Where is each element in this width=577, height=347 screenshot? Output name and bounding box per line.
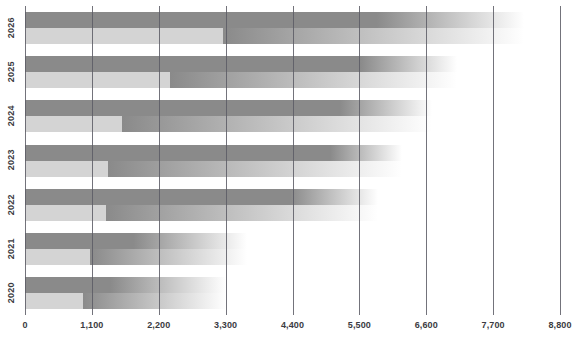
- bar-group-2020: [25, 277, 560, 309]
- bar-group-2025: [25, 56, 560, 88]
- bar-group-2024: [25, 100, 560, 132]
- bar-light-solid-2022: [25, 205, 106, 221]
- x-tick-label-7700: 7,700: [482, 320, 505, 330]
- bar-dark-solid-2026: [25, 12, 376, 28]
- gridline-8800: [560, 6, 561, 315]
- bar-light-solid-2020: [25, 293, 83, 309]
- x-tick-label-1100: 1,100: [80, 320, 103, 330]
- x-tick-label-3300: 3,300: [214, 320, 237, 330]
- x-axis: 01,1002,2003,3004,4005,5006,6007,7008,80…: [25, 320, 560, 340]
- x-tick-label-8800: 8,800: [548, 320, 571, 330]
- x-tick-label-0: 0: [22, 320, 27, 330]
- bar-dark-solid-2020: [25, 277, 110, 293]
- bar-group-2022: [25, 189, 560, 221]
- y-tick-label-2022: 2022: [0, 183, 22, 227]
- bar-dark-solid-2025: [25, 56, 360, 72]
- y-tick-label-2025: 2025: [0, 50, 22, 94]
- x-tick-label-4400: 4,400: [281, 320, 304, 330]
- bar-light-solid-2023: [25, 161, 108, 177]
- bar-dark-solid-2022: [25, 189, 290, 205]
- bar-group-2023: [25, 145, 560, 177]
- y-tick-label-2021: 2021: [0, 227, 22, 271]
- bar-group-2026: [25, 12, 560, 44]
- y-tick-label-2024: 2024: [0, 94, 22, 138]
- bar-dark-solid-2023: [25, 145, 330, 161]
- x-tick-label-2200: 2,200: [147, 320, 170, 330]
- bar-light-solid-2024: [25, 116, 122, 132]
- y-tick-label-2026: 2026: [0, 6, 22, 50]
- x-tick-label-5500: 5,500: [348, 320, 371, 330]
- y-axis: 2020202120222023202420252026: [0, 6, 24, 315]
- x-tick-label-6600: 6,600: [415, 320, 438, 330]
- bar-light-solid-2026: [25, 28, 223, 44]
- bar-dark-solid-2024: [25, 100, 340, 116]
- bar-chart: 2020202120222023202420252026 01,1002,200…: [0, 0, 577, 347]
- bar-light-solid-2025: [25, 72, 170, 88]
- y-tick-label-2020: 2020: [0, 271, 22, 315]
- bar-group-2021: [25, 233, 560, 265]
- plot-area: [25, 6, 560, 315]
- y-tick-label-2023: 2023: [0, 138, 22, 182]
- bar-dark-solid-2021: [25, 233, 133, 249]
- bar-light-solid-2021: [25, 249, 90, 265]
